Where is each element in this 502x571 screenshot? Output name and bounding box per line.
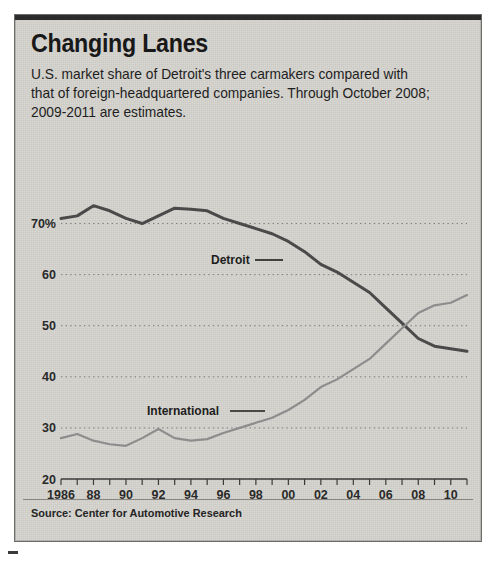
y-tick-label: 30 (42, 421, 56, 435)
line-chart: 70%6050403020 19868890929496980002040608… (15, 15, 481, 541)
screenshot-page: Changing Lanes U.S. market share of Detr… (0, 0, 502, 571)
detroit-series-label: Detroit (211, 253, 250, 267)
series-line-detroit (61, 206, 467, 352)
corner-crop-mark (8, 551, 18, 554)
series-line-international (61, 295, 467, 446)
y-tick-label: 70% (31, 217, 56, 231)
y-tick-label: 20 (42, 473, 56, 487)
y-axis-tick-labels: 70%6050403020 (31, 217, 56, 486)
source-note: Source: Center for Automotive Research (31, 507, 242, 519)
series-annotations: DetroitInternational (147, 253, 283, 418)
y-tick-label: 60 (42, 268, 56, 282)
y-tick-label: 40 (42, 370, 56, 384)
x-axis (61, 479, 467, 485)
y-tick-label: 50 (42, 319, 56, 333)
chart-panel: Changing Lanes U.S. market share of Detr… (14, 14, 482, 542)
source-rule (23, 499, 473, 500)
international-series-label: International (147, 404, 219, 418)
